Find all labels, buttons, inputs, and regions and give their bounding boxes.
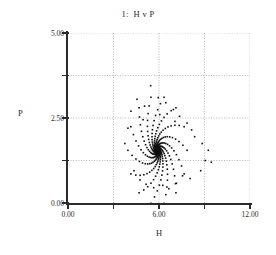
chart-title: 1: H v P bbox=[0, 9, 276, 19]
x-tick-label: 12.00 bbox=[227, 210, 273, 219]
x-tick-label: 6.00 bbox=[136, 210, 182, 219]
x-tick bbox=[113, 203, 114, 209]
x-axis-title: H bbox=[68, 228, 250, 238]
x-tick bbox=[158, 203, 159, 209]
x-tick bbox=[67, 203, 68, 209]
scatter-points bbox=[68, 33, 250, 203]
y-tick bbox=[62, 160, 69, 161]
y-axis-title: P bbox=[18, 108, 23, 118]
y-tick-label: 5.00 bbox=[24, 29, 64, 38]
plot-area bbox=[68, 33, 250, 203]
x-tick bbox=[204, 203, 205, 209]
x-tick bbox=[249, 203, 250, 209]
y-tick-label: 0.00 bbox=[24, 199, 64, 208]
y-tick bbox=[62, 75, 69, 76]
x-tick-label: 0.00 bbox=[45, 210, 91, 219]
y-tick-label: 2.50 bbox=[24, 114, 64, 123]
chart-root: 1: H v P 0.002.505.00 0.006.0012.00 H P bbox=[0, 0, 276, 255]
